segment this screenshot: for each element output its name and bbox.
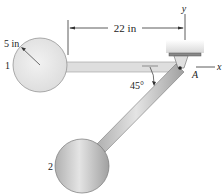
y-axis: y [181, 3, 187, 40]
sphere-1-label: 1 [5, 60, 10, 71]
sphere-1: 5 in 1 [4, 38, 67, 92]
dimension-length-label: 22 in [114, 22, 137, 34]
y-axis-label: y [181, 3, 187, 14]
pin-label: A [191, 69, 199, 80]
sphere-2: 2 [48, 139, 109, 193]
diagonal-rod [97, 64, 184, 152]
x-axis-label: x [216, 61, 222, 72]
angle-label: 45° [130, 80, 144, 91]
pendulum-diagram: 22 in y 45° 5 in 1 2 A x [0, 0, 224, 194]
ceiling-block [166, 40, 204, 53]
horizontal-rod [62, 62, 180, 72]
radius-label: 5 in [4, 38, 19, 49]
pin-icon [178, 66, 182, 70]
x-axis: x [196, 61, 222, 72]
sphere-2-label: 2 [48, 161, 53, 172]
